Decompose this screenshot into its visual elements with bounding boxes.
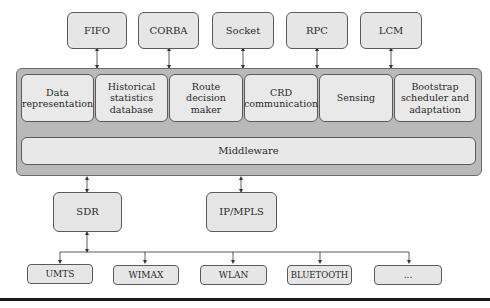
radio-wimax: WIMAX: [113, 265, 179, 285]
radio-bluetooth: BLUETOOTH: [287, 265, 352, 285]
module-label: Route decision maker: [172, 81, 240, 116]
bottom-rule: [0, 298, 490, 301]
module-data-representation: Data representation: [21, 74, 94, 122]
module-label: Historical statistics database: [98, 81, 165, 116]
radio-label: BLUETOOTH: [291, 269, 348, 281]
radio-label: WIMAX: [129, 269, 164, 281]
protocol-lcm: LCM: [360, 12, 422, 49]
module-label: Sensing: [337, 92, 375, 104]
protocol-rpc: RPC: [286, 12, 348, 49]
radio-label: UMTS: [46, 268, 75, 280]
transport-label: SDR: [76, 206, 98, 218]
protocol-corba: CORBA: [138, 12, 199, 49]
radio-umts: UMTS: [27, 264, 93, 284]
module-sensing: Sensing: [319, 74, 393, 122]
protocol-label: LCM: [379, 25, 404, 37]
radio-wlan: WLAN: [200, 265, 267, 285]
radio-more: ...: [374, 265, 442, 285]
protocol-label: FIFO: [84, 25, 110, 37]
middleware-label: Middleware: [218, 145, 279, 157]
module-label: CRD communication: [244, 87, 318, 110]
middleware-layer: Middleware: [21, 137, 476, 165]
module-crd-communication: CRD communication: [244, 74, 318, 122]
transport-label: IP/MPLS: [219, 206, 264, 218]
protocol-label: RPC: [306, 25, 328, 37]
module-bootstrap-scheduler: Bootstrap scheduler and adaptation: [394, 74, 476, 122]
module-label: Data representation: [22, 87, 93, 110]
protocol-fifo: FIFO: [67, 12, 127, 49]
transport-ip-mpls: IP/MPLS: [206, 192, 277, 232]
protocol-label: Socket: [226, 25, 260, 37]
transport-sdr: SDR: [53, 192, 122, 232]
module-historical-statistics-database: Historical statistics database: [95, 74, 168, 122]
module-label: Bootstrap scheduler and adaptation: [397, 81, 473, 116]
protocol-label: CORBA: [150, 25, 188, 37]
protocol-socket: Socket: [212, 12, 274, 49]
module-route-decision-maker: Route decision maker: [169, 74, 243, 122]
radio-label: ...: [404, 269, 413, 281]
radio-label: WLAN: [219, 269, 249, 281]
